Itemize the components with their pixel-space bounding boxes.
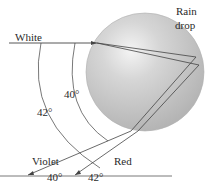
- arc-40-label: 40°: [64, 88, 79, 100]
- red-label: Red: [114, 155, 132, 167]
- violet-label: Violet: [32, 155, 59, 167]
- ground-red-angle-label: 42°: [88, 171, 103, 183]
- violet-arrowhead: [28, 171, 34, 175]
- violet-exit-ray: [28, 131, 131, 175]
- ground-violet-angle-label: 40°: [47, 171, 62, 183]
- red-exit-ray: [75, 131, 138, 175]
- red-arrowhead: [75, 170, 81, 175]
- white-label: White: [15, 31, 42, 43]
- raindrop-label-line1: Rain: [176, 5, 197, 17]
- raindrop-label-line2: drop: [175, 19, 195, 31]
- arc-42-label: 42°: [37, 106, 52, 118]
